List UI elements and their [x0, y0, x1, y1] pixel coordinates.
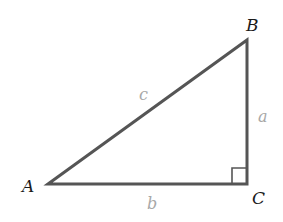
- vertex-label-b: B: [245, 15, 259, 35]
- right-triangle-diagram: A B C c a b: [0, 0, 283, 222]
- triangle-shape: [48, 40, 247, 184]
- side-label-a: a: [258, 107, 268, 126]
- vertex-label-c: C: [252, 188, 265, 208]
- side-label-b: b: [147, 194, 157, 213]
- side-label-c: c: [139, 85, 148, 104]
- right-angle-marker: [232, 168, 247, 184]
- vertex-label-a: A: [20, 176, 34, 196]
